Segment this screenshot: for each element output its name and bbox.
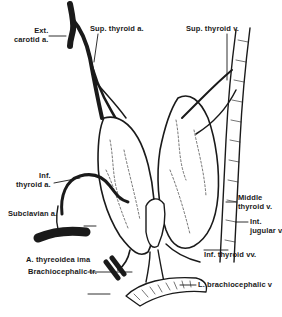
label-thyreoidea-ima: A. thyreoidea ima	[26, 256, 90, 265]
label-middle-thyroid-line2: thyroid v.	[238, 203, 272, 212]
label-l-brachiocephalic-vein: L. brachiocephalic v	[198, 281, 272, 290]
right-thyroid-lobe	[158, 96, 219, 248]
label-inf-thyroid-veins: Inf. thyroid vv.	[204, 251, 256, 260]
internal-jugular-vein	[220, 30, 236, 262]
label-brachiocephalic-trunk: Brachiocephalic tr.	[28, 268, 97, 277]
label-sup-thyroid-vein: Sup. thyroid v.	[186, 25, 239, 34]
label-ext-carotid: Ext. carotid a.	[14, 27, 48, 44]
sup-thyroid-vein	[182, 70, 232, 118]
label-subclavian: Subclavian a.	[8, 210, 57, 219]
label-int-jugular: Int. jugular v.	[250, 218, 282, 235]
l-brachiocephalic-vein	[126, 278, 207, 306]
label-inf-thyroid-line2: thyroid a.	[16, 181, 51, 190]
label-middle-thyroid-vein: Middle thyroid v.	[238, 194, 272, 211]
ext-carotid-artery	[70, 4, 73, 46]
label-int-jugular-line2: jugular v.	[250, 227, 282, 236]
subclavian-artery	[38, 231, 86, 238]
inf-thyroid-veins	[146, 244, 200, 282]
label-inf-thyroid-artery: Inf. thyroid a.	[16, 172, 51, 189]
label-ext-carotid-line2: carotid a.	[14, 36, 48, 45]
label-sup-thyroid-artery: Sup. thyroid a.	[90, 25, 144, 34]
isthmus	[146, 199, 165, 247]
